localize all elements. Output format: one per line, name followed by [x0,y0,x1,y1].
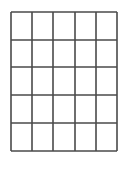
grid-drawing [0,0,129,185]
figure-background [0,0,129,185]
grid-figure-canvas [0,0,129,185]
